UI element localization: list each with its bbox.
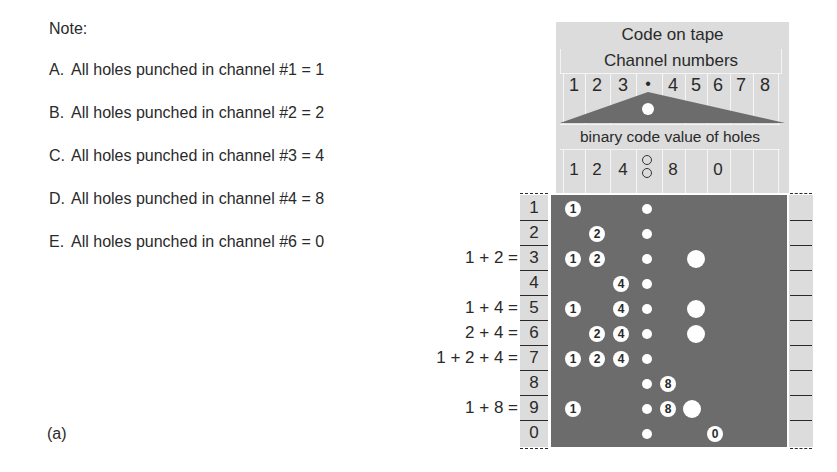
row-equation: 1 + 8 = <box>398 398 518 418</box>
sprocket-hole <box>642 279 652 289</box>
row-digit: 0 <box>520 421 548 446</box>
row-digit: 7 <box>520 346 548 371</box>
note-title: Note: <box>49 20 87 38</box>
hole-channel-1: 1 <box>565 401 581 417</box>
binary-value: 2 <box>585 160 609 180</box>
row-tick <box>790 395 812 396</box>
binary-value: 8 <box>661 160 685 180</box>
row-digit: 4 <box>520 271 548 296</box>
hole-channel-2: 2 <box>589 351 605 367</box>
sprocket-hole <box>642 379 652 389</box>
channel-numbers-label: Channel numbers <box>560 49 782 74</box>
parity-hole-channel-5 <box>687 325 705 343</box>
note-letter: C. <box>49 147 71 165</box>
row-digit: 8 <box>520 371 548 396</box>
tape-cut-line <box>520 193 548 194</box>
row-digit: 9 <box>520 396 548 421</box>
note-item-c: C.All holes punched in channel #3 = 4 <box>49 147 324 165</box>
binary-code-label: binary code value of holes <box>560 124 780 150</box>
row-digit: 3 <box>520 246 548 271</box>
sprocket-hole <box>642 329 652 339</box>
sprocket-hole <box>642 354 652 364</box>
row-tick <box>790 420 812 421</box>
hole-channel-3: 4 <box>613 276 629 292</box>
note-letter: A. <box>49 61 71 79</box>
row-tick <box>790 320 812 321</box>
hole-channel-4: 8 <box>660 401 676 417</box>
hole-channel-2: 2 <box>589 251 605 267</box>
note-item-b: B.All holes punched in channel #2 = 2 <box>49 104 324 122</box>
note-letter: B. <box>49 104 71 122</box>
sprocket-dot-icon: • <box>636 75 660 93</box>
column-divider <box>778 149 779 193</box>
tape-cut-line <box>520 448 548 449</box>
sprocket-rings-icon <box>641 155 653 181</box>
hole-channel-2: 2 <box>589 226 605 242</box>
row-tick <box>790 295 812 296</box>
note-item-e: E.All holes punched in channel #6 = 0 <box>49 233 324 251</box>
hole-channel-3: 4 <box>613 351 629 367</box>
note-text: All holes punched in channel #1 = 1 <box>71 61 324 78</box>
note-text: All holes punched in channel #3 = 4 <box>71 147 324 164</box>
row-equation: 1 + 2 + 4 = <box>398 348 518 368</box>
tape-cut-line <box>790 193 812 194</box>
column-divider <box>636 149 637 193</box>
hole-channel-6: 0 <box>707 426 723 442</box>
figure-label: (a) <box>47 425 67 443</box>
row-equation: 1 + 2 = <box>398 248 518 268</box>
sprocket-pointer-triangle-icon <box>556 92 789 124</box>
note-text: All holes punched in channel #6 = 0 <box>71 233 324 250</box>
parity-hole-channel-5 <box>687 250 705 268</box>
row-digit: 5 <box>520 296 548 321</box>
column-divider <box>753 149 754 193</box>
hole-channel-4: 8 <box>660 376 676 392</box>
row-tick <box>790 270 812 271</box>
sprocket-hole <box>642 204 652 214</box>
binary-value: 4 <box>611 160 635 180</box>
header-title: Code on tape <box>556 22 789 47</box>
note-item-d: D.All holes punched in channel #4 = 8 <box>49 190 324 208</box>
parity-hole-channel-5 <box>683 400 701 418</box>
binary-value: 1 <box>562 160 586 180</box>
parity-hole-channel-5 <box>687 300 705 318</box>
note-text: All holes punched in channel #2 = 2 <box>71 104 324 121</box>
sprocket-hole <box>642 404 652 414</box>
sprocket-hole <box>642 429 652 439</box>
tape-cut-line <box>790 448 812 449</box>
hole-channel-2: 2 <box>589 326 605 342</box>
hole-channel-1: 1 <box>565 351 581 367</box>
note-letter: E. <box>49 233 71 251</box>
binary-value: 0 <box>706 160 730 180</box>
hole-channel-3: 4 <box>613 301 629 317</box>
row-digit: 1 <box>520 196 548 221</box>
row-tick <box>790 370 812 371</box>
tape-right-margin <box>789 195 813 447</box>
note-letter: D. <box>49 190 71 208</box>
hole-channel-1: 1 <box>565 251 581 267</box>
note-text: All holes punched in channel #4 = 8 <box>71 190 324 207</box>
row-tick <box>790 220 812 221</box>
row-tick <box>790 245 812 246</box>
hole-channel-1: 1 <box>565 301 581 317</box>
row-tick <box>790 345 812 346</box>
row-equation: 2 + 4 = <box>398 323 518 343</box>
hole-channel-1: 1 <box>565 201 581 217</box>
sprocket-hole <box>642 254 652 264</box>
hole-channel-3: 4 <box>613 326 629 342</box>
sprocket-hole <box>642 304 652 314</box>
row-equation: 1 + 4 = <box>398 298 518 318</box>
column-divider <box>730 149 731 193</box>
sprocket-hole <box>642 229 652 239</box>
note-item-a: A.All holes punched in channel #1 = 1 <box>49 61 324 79</box>
row-digit: 2 <box>520 221 548 246</box>
row-digit: 6 <box>520 321 548 346</box>
column-divider <box>685 149 686 193</box>
